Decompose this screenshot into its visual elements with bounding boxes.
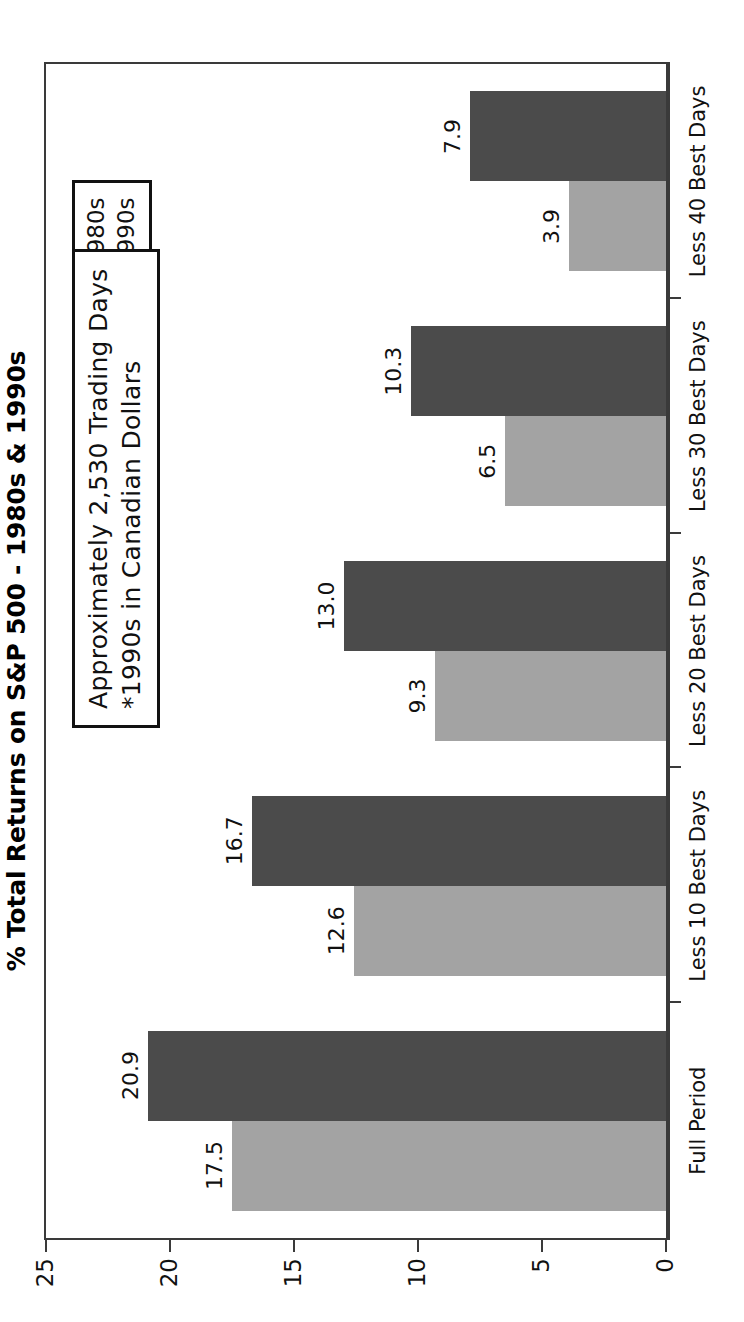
bar-1990s-3	[411, 326, 666, 416]
bar-1990s-1	[252, 796, 666, 886]
x-axis-line	[668, 62, 670, 1240]
x-axis-category-label: Less 10 Best Days	[686, 768, 710, 1003]
bar-1990s-2	[344, 561, 666, 651]
rotated-page-stage: % Total Returns on S&P 500 - 1980s & 199…	[0, 0, 744, 1322]
x-axis-tick	[668, 297, 681, 299]
y-axis-label: 25	[34, 1258, 57, 1316]
y-axis-tick	[169, 1238, 171, 1252]
bar-value-label: 10.3	[381, 322, 406, 420]
y-axis-tick	[45, 1238, 47, 1252]
x-axis-tick	[668, 532, 681, 534]
y-axis-label: 0	[654, 1258, 677, 1316]
y-axis-label: 15	[282, 1258, 305, 1316]
x-axis-category-label: Less 30 Best Days	[686, 299, 710, 534]
y-axis-label: 10	[406, 1258, 429, 1316]
bar-1980s-3	[505, 416, 666, 506]
x-axis-category-label: Less 20 Best Days	[686, 534, 710, 769]
chart-title: % Total Returns on S&P 500 - 1980s & 199…	[2, 0, 31, 1322]
annotation-line-2: *1990s in Canadian Dollars	[115, 268, 148, 709]
bar-value-label: 9.3	[405, 647, 430, 745]
y-axis-line	[44, 1238, 670, 1240]
bar-value-label: 7.9	[440, 87, 465, 185]
bar-1980s-0	[232, 1121, 666, 1211]
bar-value-label: 13.0	[314, 557, 339, 655]
y-axis-label: 20	[158, 1258, 181, 1316]
bar-1980s-2	[435, 651, 666, 741]
bar-1990s-4	[470, 91, 666, 181]
annotation-note: Approximately 2,530 Trading Days *1990s …	[72, 249, 160, 728]
y-axis-tick	[417, 1238, 419, 1252]
bar-value-label: 16.7	[222, 792, 247, 890]
y-axis-tick	[665, 1238, 667, 1252]
bar-chart: % Total Returns on S&P 500 - 1980s & 199…	[0, 0, 744, 1322]
bar-1990s-0	[148, 1031, 666, 1121]
annotation-line-1: Approximately 2,530 Trading Days	[82, 268, 115, 709]
bar-value-label: 12.6	[324, 882, 349, 980]
x-axis-category-label: Less 40 Best Days	[686, 64, 710, 299]
y-axis-label: 5	[530, 1258, 553, 1316]
x-axis-tick	[668, 766, 681, 768]
bar-value-label: 6.5	[475, 412, 500, 510]
bar-value-label: 17.5	[202, 1117, 227, 1215]
y-axis-tick	[541, 1238, 543, 1252]
bar-1980s-4	[569, 181, 666, 271]
bar-value-label: 20.9	[118, 1027, 143, 1125]
x-axis-tick	[668, 1001, 681, 1003]
x-axis-category-label: Full Period	[686, 1003, 710, 1238]
bar-value-label: 3.9	[539, 177, 564, 275]
bar-1980s-1	[354, 886, 666, 976]
y-axis-tick	[293, 1238, 295, 1252]
